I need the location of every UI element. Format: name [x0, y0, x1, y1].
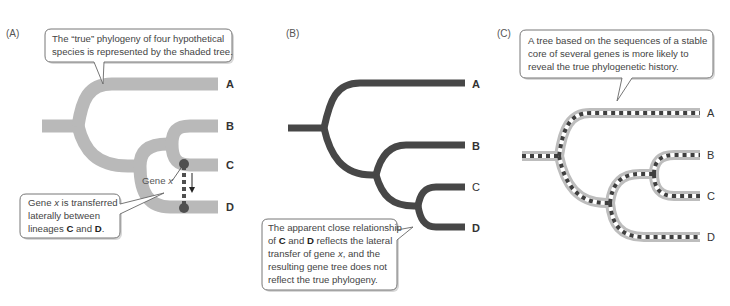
- branch-inner-2: [376, 175, 418, 206]
- leaf-label-b: B: [707, 149, 714, 161]
- branch-b: [376, 145, 465, 175]
- leaf-label-d: D: [226, 201, 234, 213]
- gene-x-label: Gene x: [142, 175, 174, 186]
- leaf-label-c: C: [472, 181, 480, 193]
- leaf-label-b: B: [472, 140, 480, 152]
- lateral-gene-transfer-figure: (A) Gene x A B C D: [0, 0, 730, 306]
- panel-b-leaf-labels: A B C D: [472, 78, 480, 234]
- panel-a-label: (A): [6, 28, 19, 39]
- leaf-label-c: C: [226, 159, 234, 171]
- panel-c-shaded-tree: [522, 113, 700, 237]
- panel-c-label: (C): [497, 28, 511, 39]
- leaf-label-c: C: [707, 190, 715, 202]
- panel-a-leaf-labels: A B C D: [226, 78, 234, 213]
- panel-a: (A) Gene x A B C D: [6, 28, 234, 240]
- leaf-label-a: A: [707, 107, 715, 119]
- branch-c: [172, 144, 218, 165]
- gene-x-dot-c: [179, 159, 189, 169]
- panel-c-leaf-labels: A B C D: [707, 107, 715, 243]
- branch-d: [418, 206, 465, 227]
- panel-b: (B) A B C D The apparent close relations…: [262, 28, 480, 292]
- panel-b-gene-tree: [288, 83, 465, 227]
- panel-b-callout: The apparent close relationship of C and…: [262, 219, 413, 292]
- branch-inner-2-top: [610, 174, 654, 203]
- panel-a-bottom-callout: Gene x is transferred laterally between …: [20, 193, 164, 240]
- leaf-label-a: A: [472, 78, 480, 90]
- branch-a: [559, 113, 700, 156]
- leaf-label-b: B: [226, 120, 234, 132]
- transfer-arrow-head-icon: [189, 187, 195, 193]
- branch-inner-1: [78, 126, 140, 166]
- panel-a-top-callout: The “true” phylogeny of four hypothetica…: [45, 29, 234, 84]
- branch-inner-1: [324, 128, 376, 175]
- branch-b: [172, 126, 218, 144]
- branch-d: [140, 166, 218, 207]
- gene-label-leader: [172, 168, 181, 181]
- panel-b-label: (B): [286, 28, 299, 39]
- core-dash-d: [610, 203, 700, 237]
- panel-c-callout: A tree based on the sequences of a stabl…: [520, 30, 715, 101]
- leaf-label-d: D: [707, 231, 715, 243]
- panel-c: (C): [497, 28, 715, 243]
- leaf-label-a: A: [226, 78, 234, 90]
- leaf-label-d: D: [472, 222, 480, 234]
- gene-x-dot-d: [179, 203, 189, 213]
- branch-a: [324, 83, 465, 128]
- branch-c: [418, 187, 465, 206]
